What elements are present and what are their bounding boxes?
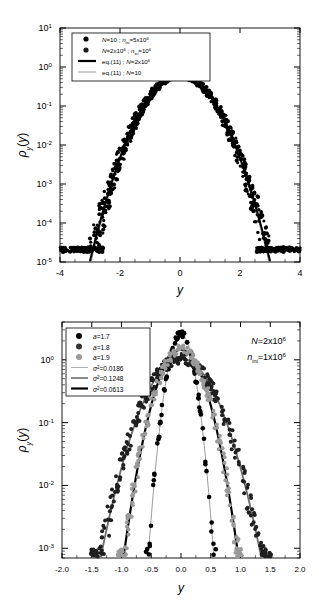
data-point	[138, 457, 142, 461]
data-point	[244, 174, 248, 178]
data-point	[121, 467, 125, 471]
x-tick-label: -2.0	[55, 565, 69, 574]
data-point	[166, 359, 170, 363]
data-point	[107, 534, 111, 538]
data-point	[136, 475, 140, 479]
data-point	[120, 458, 124, 462]
data-point	[154, 83, 157, 86]
data-point	[97, 547, 101, 551]
data-point	[202, 386, 206, 390]
data-point	[220, 410, 224, 414]
data-point	[116, 489, 120, 493]
data-point	[214, 103, 217, 106]
data-point	[185, 340, 190, 345]
data-point	[111, 169, 114, 172]
data-point	[131, 420, 135, 424]
data-point	[113, 186, 116, 189]
data-point	[256, 231, 259, 234]
data-point	[237, 151, 240, 154]
data-point-floor	[276, 248, 280, 252]
data-point	[95, 237, 98, 240]
data-point	[97, 212, 101, 216]
data-point	[134, 490, 138, 494]
data-point	[155, 379, 159, 383]
y-axis-label: ρy(y)	[15, 428, 33, 454]
data-point	[267, 234, 270, 237]
data-point	[222, 422, 226, 426]
data-point	[217, 447, 221, 451]
data-point	[95, 231, 99, 235]
data-point	[225, 473, 229, 477]
data-point	[157, 82, 160, 85]
data-point	[232, 444, 236, 448]
data-point	[146, 99, 150, 103]
y-tick-label: 10-1	[37, 100, 53, 112]
data-point	[256, 213, 259, 216]
data-point	[191, 357, 195, 361]
data-point	[214, 547, 219, 552]
data-point	[131, 503, 135, 507]
data-point	[158, 421, 163, 426]
data-point	[120, 452, 124, 456]
data-point	[99, 207, 103, 211]
data-point	[118, 157, 121, 160]
data-point	[209, 520, 214, 525]
data-point	[100, 535, 104, 539]
data-point	[131, 494, 135, 498]
data-point	[247, 510, 251, 514]
data-point	[217, 438, 221, 442]
data-point	[245, 507, 249, 511]
data-point	[221, 446, 225, 450]
data-point	[220, 110, 224, 114]
x-axis-label: y	[177, 581, 185, 595]
data-point	[110, 183, 113, 186]
data-point-floor	[282, 246, 286, 250]
data-point	[128, 447, 132, 451]
data-point-floor	[100, 245, 104, 249]
data-point	[220, 405, 224, 409]
data-point	[203, 459, 208, 464]
data-point	[234, 450, 238, 454]
data-point	[125, 132, 128, 135]
data-point	[123, 448, 127, 452]
data-point	[262, 233, 265, 236]
data-point	[109, 188, 112, 191]
data-point	[211, 98, 214, 101]
x-tick-label: 0.5	[205, 565, 217, 574]
legend-label: a=1.8	[93, 344, 110, 351]
x-tick-label: 0	[177, 268, 182, 278]
data-point	[115, 177, 118, 180]
legend-label: eq.(11) ; N=2x106	[102, 58, 151, 66]
data-point	[147, 552, 152, 557]
data-point-floor	[255, 246, 258, 249]
data-point	[108, 509, 112, 513]
data-point	[102, 219, 105, 222]
data-point	[116, 484, 120, 488]
data-point	[101, 228, 105, 232]
bottom-panel: 10-310-210-1100-2.0-1.5-1.0-0.50.00.51.0…	[0, 300, 319, 613]
annotation-nini: nini=1x106	[247, 351, 286, 365]
data-point	[242, 480, 246, 484]
data-point	[202, 379, 206, 383]
data-point	[126, 532, 130, 536]
annotation-N: N=2x106	[251, 335, 286, 347]
top-panel-plot: 10-510-410-310-210-1100101-4-2024yρy(y)N…	[0, 0, 319, 300]
data-point	[237, 448, 241, 452]
data-point	[101, 232, 104, 235]
data-point	[147, 541, 152, 546]
data-point	[149, 396, 153, 400]
data-point	[123, 148, 127, 152]
x-tick-label: 1.0	[235, 565, 247, 574]
y-tick-label: 10-1	[39, 416, 55, 428]
data-point	[230, 136, 233, 139]
y-tick-label: 10-5	[37, 256, 53, 268]
data-point	[222, 452, 226, 456]
x-tick-label: -1.0	[115, 565, 129, 574]
data-point	[252, 520, 256, 524]
data-point	[100, 529, 104, 533]
data-point	[122, 145, 125, 148]
data-point	[125, 440, 129, 444]
data-point	[230, 131, 234, 135]
data-point	[204, 469, 209, 474]
data-point	[235, 158, 239, 162]
